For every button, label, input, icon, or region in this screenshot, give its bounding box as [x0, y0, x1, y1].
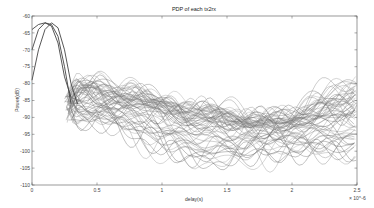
x-tick-label: 2.5 [354, 187, 361, 193]
y-axis-label: Power(dB) [14, 88, 20, 112]
x-axis-label: delay(s) [185, 196, 203, 202]
pdp-chart: -60-65-70-75-80-85-90-95-100-105-110 00.… [0, 0, 374, 208]
y-tick-label: -80 [23, 80, 30, 86]
y-tick-label: -100 [20, 148, 30, 154]
x-tick-label: 0.5 [94, 187, 101, 193]
x-tick-label: 0 [31, 187, 34, 193]
x-tick-label: 2 [291, 187, 294, 193]
x-tick-label: 1 [161, 187, 164, 193]
figure: -60-65-70-75-80-85-90-95-100-105-110 00.… [0, 0, 374, 208]
y-tick-label: -70 [23, 47, 30, 53]
y-tick-label: -75 [23, 63, 30, 69]
y-tick-label: -90 [23, 114, 30, 120]
y-tick-label: -60 [23, 13, 30, 19]
y-tick-label: -95 [23, 131, 30, 137]
y-tick-label: -65 [23, 30, 30, 36]
y-tick-label: -105 [20, 165, 30, 171]
x-exponent-label: × 10^-6 [349, 195, 366, 201]
y-tick-label: -85 [23, 97, 30, 103]
y-tick-label: -110 [20, 182, 30, 188]
x-tick-label: 1.5 [224, 187, 231, 193]
chart-title: PDP of each tx2rx [172, 6, 216, 12]
